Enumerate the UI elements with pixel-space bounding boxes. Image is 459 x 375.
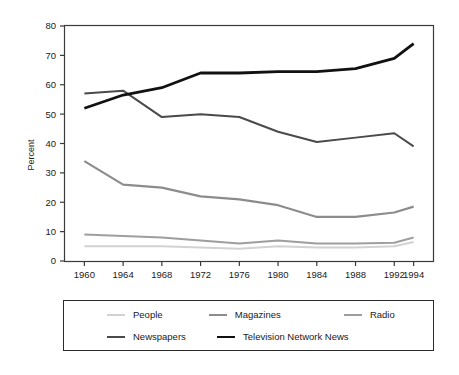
x-tick-label: 1976 [229,269,250,280]
series-line-magazines [84,161,413,217]
y-tick-label: 50 [45,109,56,120]
chart-canvas: Percent 01020304050607080 19601964196819… [0,0,459,292]
legend-item-radio[interactable]: Radio [331,310,433,320]
legend-row: NewspapersTelevision Network News [64,326,433,348]
legend-label: Television Network News [243,332,349,342]
x-tick-label: 1992 [384,269,405,280]
series-line-newspapers [84,91,413,147]
y-axis-ticks: 01020304050607080 [45,20,65,266]
x-tick-label: 1984 [306,269,327,280]
y-tick-label: 20 [45,197,56,208]
line-chart: Percent 01020304050607080 19601964196819… [0,0,459,292]
legend-label: Newspapers [133,332,186,342]
legend-swatch-icon [344,314,362,316]
y-tick-label: 70 [45,50,56,61]
series-lines [84,44,413,249]
legend-swatch-icon [209,314,227,316]
legend-item-magazines[interactable]: Magazines [199,310,331,320]
legend-swatch-icon [217,336,235,338]
x-tick-label: 1988 [345,269,366,280]
plot-frame [65,26,434,262]
legend-item-television-network-news[interactable]: Television Network News [207,332,350,342]
x-axis-ticks: 1960196419681972197619801984198819921994 [74,261,424,280]
y-tick-label: 30 [45,167,56,178]
y-tick-label: 80 [45,20,56,31]
x-tick-label: 1968 [151,269,172,280]
legend-label: Radio [370,310,395,320]
legend-item-newspapers[interactable]: Newspapers [64,332,207,342]
x-tick-label: 1994 [403,269,424,280]
legend-swatch-icon [107,314,125,316]
y-tick-label: 60 [45,79,56,90]
legend-row: PeopleMagazinesRadio [64,304,433,326]
x-tick-label: 1960 [74,269,95,280]
y-axis-title: Percent [26,139,36,171]
y-tick-label: 10 [45,226,56,237]
chart-legend: PeopleMagazinesRadioNewspapersTelevision… [63,300,434,351]
y-tick-label: 0 [51,255,56,266]
y-tick-label: 40 [45,138,56,149]
series-line-radio [84,235,413,244]
x-tick-label: 1964 [113,269,134,280]
chart-page: Percent 01020304050607080 19601964196819… [0,0,459,375]
legend-swatch-icon [107,336,125,338]
legend-item-people[interactable]: People [64,310,199,320]
x-tick-label: 1980 [267,269,288,280]
legend-label: Magazines [235,310,281,320]
legend-label: People [133,310,163,320]
x-tick-label: 1972 [190,269,211,280]
